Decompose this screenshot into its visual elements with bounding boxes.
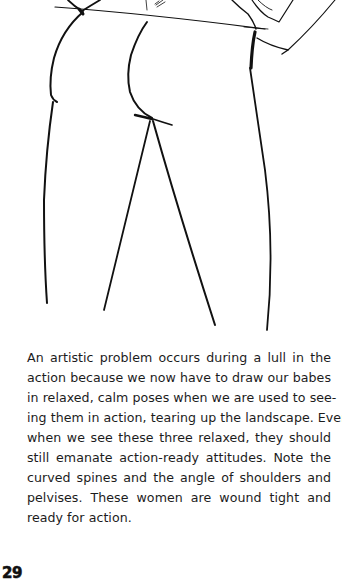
right-figure-torso bbox=[251, 32, 255, 68]
left-figure-back bbox=[50, 12, 83, 102]
left-figure-leg bbox=[44, 102, 53, 303]
middle-figure-right-leg bbox=[153, 121, 215, 325]
body-line: ing them in action, tearing up the lands… bbox=[27, 408, 331, 428]
page-number: 29 bbox=[2, 566, 22, 581]
body-line: when we see these three relaxed, they sh… bbox=[27, 428, 331, 448]
body-line: curved spines and the angle of shoulders… bbox=[27, 468, 331, 488]
body-line: in relaxed, calm poses when we are used … bbox=[27, 388, 331, 408]
body-line: pelvises. These women are wound tight an… bbox=[27, 488, 331, 508]
right-figure-shoulder bbox=[232, 0, 256, 29]
figure-sketch-illustration bbox=[0, 0, 342, 340]
body-line: ready for action. bbox=[27, 508, 331, 528]
shoulder-line bbox=[55, 7, 265, 29]
body-paragraph: An artistic problem occurs during a lull… bbox=[27, 348, 331, 528]
left-figure-neck bbox=[68, 0, 100, 11]
body-line: action because we now have to draw our b… bbox=[27, 368, 331, 388]
right-figure-upper-arm bbox=[288, 0, 335, 50]
sketch-drawing bbox=[0, 0, 342, 340]
body-line: still emanate action-ready attitudes. No… bbox=[27, 448, 331, 468]
middle-figure-left-leg bbox=[104, 121, 150, 310]
body-line: An artistic problem occurs during a lull… bbox=[27, 348, 331, 368]
right-figure-leg bbox=[250, 68, 271, 330]
right-figure-arm bbox=[257, 38, 288, 54]
middle-figure-back bbox=[128, 22, 152, 118]
